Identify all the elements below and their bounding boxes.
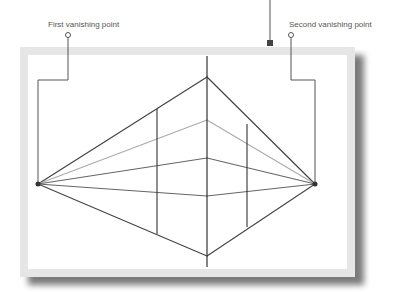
perspective-diagram <box>0 0 408 292</box>
drawing-canvas <box>28 55 347 269</box>
first-vp-callout-circle-icon <box>66 33 71 38</box>
first-vanishing-point-dot <box>36 182 41 187</box>
first-vanishing-point-label: First vanishing point <box>48 20 119 29</box>
square-marker-icon <box>267 40 273 46</box>
second-vanishing-point-dot <box>313 182 318 187</box>
second-vanishing-point-label: Second vanishing point <box>289 20 372 29</box>
second-vp-callout-circle-icon <box>289 33 294 38</box>
